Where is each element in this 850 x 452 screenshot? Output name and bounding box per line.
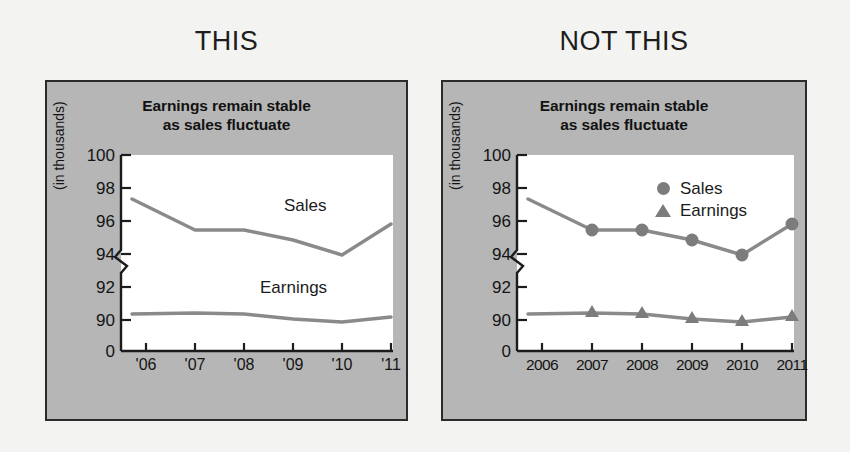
series-markers-earnings-not-this — [585, 305, 799, 326]
x-tick-10: '10 — [332, 356, 353, 374]
legend-label-earnings: Earnings — [680, 202, 747, 219]
legend-label-sales: Sales — [680, 180, 723, 197]
series-line-earnings-this — [132, 313, 391, 322]
panel-heading-this: THIS — [45, 26, 408, 57]
triangle-marker-icon — [655, 204, 671, 217]
y-tick-marks-not-this — [517, 155, 527, 320]
chart-legend-not-this: Sales Earnings — [655, 177, 747, 221]
legend-entry-sales: Sales — [655, 177, 747, 199]
chart-panel-not-this: Earnings remain stable as sales fluctuat… — [441, 80, 807, 421]
figure-canvas: THIS Earnings remain stable as sales flu… — [0, 0, 850, 452]
x-tick-2011: 2011 — [777, 356, 808, 374]
x-tick-08: '08 — [234, 356, 255, 374]
x-tick-11: '11 — [381, 356, 401, 374]
x-tick-07: '07 — [185, 356, 206, 374]
x-tick-2010: 2010 — [726, 356, 758, 374]
panel-heading-not-this: NOT THIS — [441, 26, 807, 57]
series-line-earnings-not-this — [528, 313, 792, 322]
circle-marker-icon — [655, 182, 671, 195]
x-tick-06: '06 — [136, 356, 157, 374]
y-tick-marks-this — [121, 155, 131, 320]
x-tick-2008: 2008 — [626, 356, 658, 374]
x-tick-2007: 2007 — [576, 356, 608, 374]
series-label-sales-this: Sales — [284, 196, 327, 216]
legend-entry-earnings: Earnings — [655, 199, 747, 221]
x-tick-2009: 2009 — [676, 356, 708, 374]
series-line-sales-this — [132, 199, 391, 255]
chart-panel-this: Earnings remain stable as sales fluctuat… — [45, 80, 408, 421]
chart-svg-this — [47, 82, 410, 423]
x-tick-09: '09 — [283, 356, 304, 374]
x-tick-2006: 2006 — [526, 356, 558, 374]
series-label-earnings-this: Earnings — [260, 278, 327, 298]
